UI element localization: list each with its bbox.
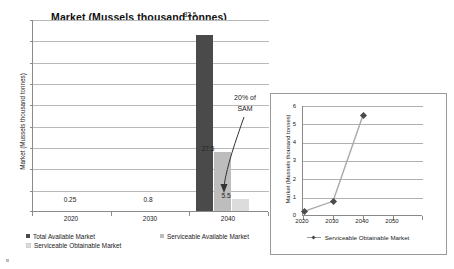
- legend-label-sam: Serviceable Available Market: [167, 233, 249, 240]
- plot-area: [32, 20, 268, 212]
- y-tick-mark-20: [30, 169, 33, 170]
- inset-legend: Serviceable Obtainable Market: [307, 234, 409, 241]
- y-axis-label: Market (Mussels thousand tonnes): [19, 47, 26, 197]
- inset-line-chart: Market (Mussels thousand tonnes) 6 5 4 3…: [270, 93, 447, 255]
- gridline-90: [33, 20, 269, 21]
- annotation-20-percent-of-sam: 20% of SAM: [221, 92, 269, 114]
- gridline-20: [33, 169, 269, 170]
- legend-swatch-tam: [26, 234, 30, 238]
- data-label-5-5: 5.5: [211, 192, 241, 199]
- annotation-line-2: SAM: [237, 105, 252, 112]
- inset-x-tick-2050: 2050: [372, 218, 412, 224]
- y-tick-mark-80: [30, 41, 33, 42]
- inset-y-tick-5: 5: [280, 121, 296, 127]
- bar-serviceable-obtainable-market-2040: [232, 199, 249, 211]
- legend-item-serviceable-available-market: Serviceable Available Market: [160, 233, 249, 240]
- data-label-0-25: 0.25: [50, 196, 90, 203]
- scan-artifact: [6, 259, 9, 262]
- inset-y-tick-1: 1: [280, 194, 296, 200]
- x-tick-2030: 2030: [125, 215, 175, 222]
- x-tick-mark-2: [189, 212, 190, 216]
- data-label-82-5: 82.5: [175, 11, 205, 18]
- y-tick-mark-40: [30, 127, 33, 128]
- inset-y-tick-6: 6: [280, 103, 296, 109]
- gridline-30: [33, 148, 269, 149]
- bar-total-available-market-2040: [196, 35, 213, 211]
- y-tick-mark-10: [30, 191, 33, 192]
- x-tick-2020: 2020: [46, 215, 96, 222]
- legend-swatch-sam: [160, 234, 164, 238]
- x-tick-mark-end: [268, 212, 269, 216]
- x-tick-mark-start: [32, 212, 33, 216]
- gridline-80: [33, 41, 269, 42]
- inset-y-tick-2: 2: [280, 176, 296, 182]
- inset-plot-area: [302, 106, 422, 216]
- data-label-27-5: 27.5: [193, 145, 223, 152]
- y-tick-mark-50: [30, 105, 33, 106]
- gridline-60: [33, 84, 269, 85]
- inset-legend-marker: [311, 235, 315, 239]
- legend-item-total-available-market: Total Available Market: [26, 233, 95, 240]
- inset-y-tick-3: 3: [280, 157, 296, 163]
- gridline-70: [33, 63, 269, 64]
- y-tick-mark-90: [30, 20, 33, 21]
- bar-serviceable-available-market-2040: [214, 152, 231, 211]
- y-tick-mark-60: [30, 84, 33, 85]
- legend-label-tam: Total Available Market: [33, 233, 95, 240]
- annotation-line-1: 20% of: [234, 94, 256, 101]
- main-bar-chart: Market (Mussels thousand tonnes) Market …: [0, 0, 286, 269]
- x-tick-2040: 2040: [203, 215, 253, 222]
- inset-y-tick-4: 4: [280, 139, 296, 145]
- legend-swatch-som: [26, 243, 31, 248]
- legend-item-serviceable-obtainable-market: Serviceable Obtainable Market: [26, 242, 121, 249]
- inset-legend-label: Serviceable Obtainable Market: [325, 234, 410, 241]
- gridline-40: [33, 127, 269, 128]
- inset-x-mark-end: [422, 216, 423, 220]
- legend-label-som: Serviceable Obtainable Market: [34, 242, 121, 249]
- y-tick-mark-30: [30, 148, 33, 149]
- y-tick-mark-70: [30, 63, 33, 64]
- data-label-0-8: 0.8: [128, 196, 168, 203]
- x-tick-mark-1: [111, 212, 112, 216]
- inset-series-line: [303, 106, 423, 216]
